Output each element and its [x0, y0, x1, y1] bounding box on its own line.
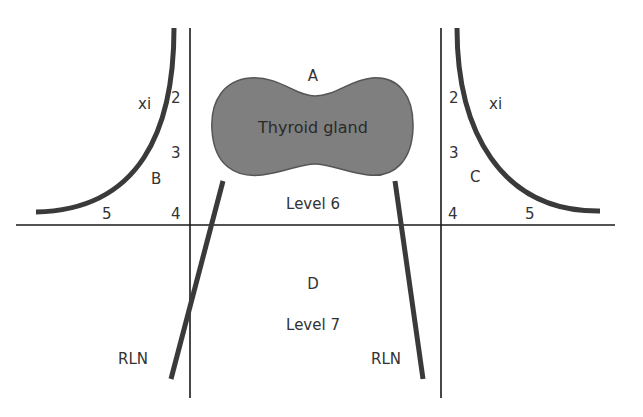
left-level-2-label: 2	[171, 89, 181, 107]
right-rln-label: RLN	[371, 350, 401, 368]
level-7-label: Level 7	[286, 316, 340, 334]
left-rln-label: RLN	[118, 350, 148, 368]
right-level-5-label: 5	[525, 205, 535, 223]
right-xi-label: xi	[489, 95, 502, 113]
compartment-b-label: B	[151, 170, 161, 188]
right-level-4-label: 4	[448, 205, 458, 223]
compartment-a-label: A	[308, 67, 319, 85]
right-level-2-label: 2	[449, 89, 459, 107]
left-level-4-label: 4	[171, 205, 181, 223]
compartment-d-label: D	[307, 275, 319, 293]
level-6-label: Level 6	[286, 195, 340, 213]
left-level-3-label: 3	[171, 144, 181, 162]
right-level-3-label: 3	[449, 144, 459, 162]
left-level-5-label: 5	[102, 205, 112, 223]
neck-levels-diagram: A Thyroid gland Level 6 D Level 7 xi 2 3…	[0, 0, 643, 417]
left-xi-label: xi	[138, 95, 151, 113]
compartment-c-label: C	[470, 168, 480, 186]
thyroid-label: Thyroid gland	[257, 118, 368, 137]
